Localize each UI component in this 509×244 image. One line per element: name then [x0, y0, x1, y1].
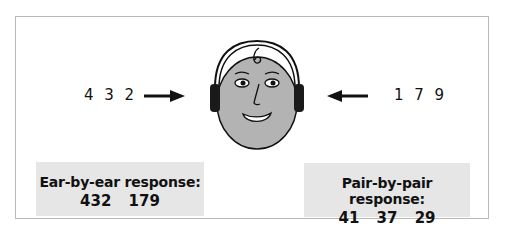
left-ear-digits: 4 3 2 [84, 86, 134, 104]
pair-by-pair-values: 41 37 29 [304, 209, 470, 227]
ear-by-ear-response-box: Ear-by-ear response: 432 179 [36, 162, 204, 216]
arrow-left-icon [326, 89, 368, 103]
pair-by-pair-response-box: Pair-by-pair response: 41 37 29 [304, 163, 470, 217]
pair-by-pair-title: Pair-by-pair response: [304, 175, 470, 207]
ear-by-ear-values: 432 179 [36, 192, 204, 210]
arrow-right-icon [144, 89, 186, 103]
head-with-headphones-icon [205, 36, 309, 152]
right-ear-digits: 1 7 9 [394, 86, 444, 104]
ear-by-ear-title: Ear-by-ear response: [36, 174, 204, 190]
